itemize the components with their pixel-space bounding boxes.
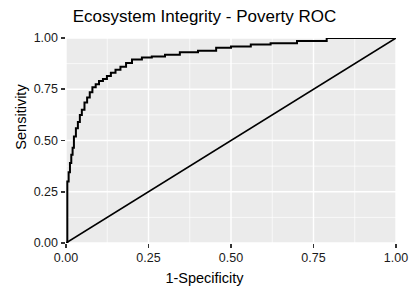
y-tick-label: 0.00 [34,236,58,250]
x-tick-mark [230,244,232,248]
y-tick-mark [61,37,65,39]
x-tick-label: 0.50 [219,251,243,265]
x-axis-title: 1-Specificity [0,270,409,286]
y-tick-label: 0.50 [34,134,58,148]
chart-title: Ecosystem Integrity - Poverty ROC [0,7,409,27]
x-tick-label: 0.75 [301,251,325,265]
x-tick-mark [148,244,150,248]
x-tick-mark [395,244,397,248]
y-tick-label: 1.00 [34,31,58,45]
x-tick-label: 1.00 [384,251,408,265]
y-tick-mark [61,140,65,142]
x-tick-label: 0.00 [54,251,78,265]
y-tick-mark [61,191,65,193]
plot-panel [66,38,396,243]
y-tick-mark [61,88,65,90]
y-tick-label: 0.75 [34,82,58,96]
roc-chart: Ecosystem Integrity - Poverty ROC 0.000.… [0,0,409,304]
y-axis-title: Sensitivity [13,42,29,192]
x-tick-label: 0.25 [136,251,160,265]
x-tick-mark [313,244,315,248]
x-tick-mark [65,244,67,248]
plot-svg [66,38,396,243]
y-tick-label: 0.25 [34,185,58,199]
